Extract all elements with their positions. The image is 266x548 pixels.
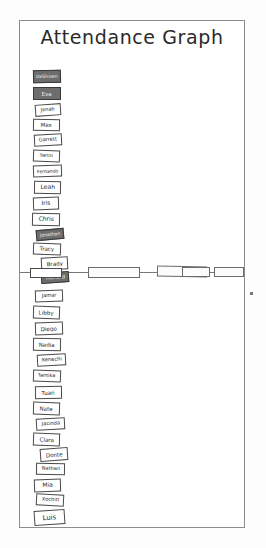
sticky-note-label: Jonah <box>40 107 56 113</box>
note-axis-blank-3[interactable] <box>214 267 244 277</box>
note-clara[interactable]: Clara <box>33 433 60 447</box>
sticky-note-label: Xochitl <box>40 497 59 503</box>
note-luis[interactable]: Luis <box>34 509 66 526</box>
note-yanni[interactable]: Yanni <box>33 150 60 163</box>
sticky-note-label: Tamika <box>37 373 57 379</box>
sticky-note-label: Luis <box>42 514 58 522</box>
note-iris[interactable]: Iris <box>33 197 59 211</box>
note-donte[interactable]: Donte <box>40 447 69 462</box>
sticky-note-label: Nadia <box>38 342 56 348</box>
note-nate[interactable]: Nate <box>33 402 60 416</box>
note-xochitl[interactable]: Xochitl <box>36 493 65 506</box>
sticky-note-label: Tuan <box>41 390 56 396</box>
sticky-note-label: Max <box>40 122 53 128</box>
sticky-note-label: Iris <box>40 200 51 206</box>
note-axis-blank-4[interactable] <box>182 267 210 277</box>
sticky-note-label: Fernando <box>36 168 59 173</box>
note-deshawn[interactable]: DeShawn <box>33 70 61 83</box>
note-fernando[interactable]: Fernando <box>33 164 62 177</box>
page-title: Attendance Graph <box>19 26 245 48</box>
sticky-note-label: DeShawn <box>35 74 59 79</box>
note-nathan[interactable]: Nathan <box>36 463 65 476</box>
sticky-note-label: Mia <box>41 482 54 488</box>
sticky-note-label: Yanni <box>39 153 54 159</box>
note-tuan[interactable]: Tuan <box>35 386 62 399</box>
note-axis-bar[interactable] <box>30 268 62 278</box>
sticky-note-label: Jamar <box>41 293 58 299</box>
note-chris[interactable]: Chris <box>32 213 60 226</box>
note-libby[interactable]: Libby <box>33 306 60 320</box>
note-jacinda[interactable]: Jacinda <box>36 417 66 431</box>
sticky-note-label: Libby <box>38 309 55 315</box>
note-tamika[interactable]: Tamika <box>33 370 61 383</box>
whiteboard-canvas: Attendance Graph DeShawnEvaJonahMaxGarre… <box>0 0 266 548</box>
note-jamar[interactable]: Jamar <box>35 290 63 303</box>
sticky-note-label: Clara <box>38 436 54 442</box>
note-tracy[interactable]: Tracy <box>33 243 61 256</box>
sticky-note-label: Jonathan <box>39 231 62 238</box>
note-garrett[interactable]: Garrett <box>34 133 63 146</box>
note-eva[interactable]: Eva <box>33 87 61 100</box>
sticky-note-label: Garrett <box>38 137 58 143</box>
note-leah[interactable]: Leah <box>34 181 61 194</box>
note-diego[interactable]: Diego <box>35 322 63 336</box>
stray-ink-mark <box>250 292 253 295</box>
sticky-note-label: Donte <box>45 451 64 458</box>
sticky-note-label: Tracy <box>39 246 56 252</box>
sticky-note-label: Eva <box>41 91 53 97</box>
note-mia[interactable]: Mia <box>34 479 61 493</box>
sticky-note-label: Kenechi <box>41 357 63 363</box>
sticky-note-label: Nate <box>39 405 54 411</box>
note-nadia[interactable]: Nadia <box>33 338 61 351</box>
sticky-note-label: Diego <box>40 325 58 331</box>
sticky-note-label: Jacinda <box>40 421 60 427</box>
note-kenechi[interactable]: Kenechi <box>37 353 67 367</box>
sticky-note-label: Chris <box>37 216 54 222</box>
sticky-note-label: Leah <box>39 184 55 190</box>
note-jonah[interactable]: Jonah <box>35 103 62 117</box>
note-axis-blank-1[interactable] <box>88 267 140 278</box>
note-max[interactable]: Max <box>33 119 60 131</box>
sticky-note-label: Brady <box>45 260 63 266</box>
sticky-note-label: Nathan <box>40 466 60 471</box>
